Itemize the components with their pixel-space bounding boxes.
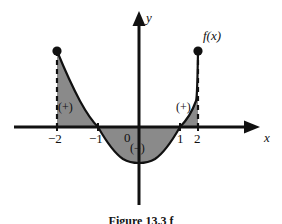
sign-label-middle-negative: (−) xyxy=(130,142,145,154)
x-tick-label-2: 2 xyxy=(194,132,201,145)
figure-caption: Figure 13.3 f xyxy=(0,214,282,224)
endpoint-dot-left xyxy=(52,46,61,55)
sign-label-right-positive: (+) xyxy=(176,101,191,113)
figure-container: y x f(x) −2 −1 1 2 0 (+) (−) (+) Figure … xyxy=(0,0,282,224)
x-tick-label--1: −1 xyxy=(89,132,103,145)
x-tick-label-1: 1 xyxy=(177,132,184,145)
x-axis-arrowhead xyxy=(244,121,260,134)
sign-label-left-positive: (+) xyxy=(58,101,73,113)
endpoint-dot-right xyxy=(193,46,202,55)
function-plot xyxy=(0,0,282,224)
y-axis-label: y xyxy=(146,11,152,24)
x-axis-label: x xyxy=(264,131,270,144)
function-label: f(x) xyxy=(203,29,221,42)
x-tick-label--2: −2 xyxy=(48,132,62,145)
y-axis-arrowhead xyxy=(133,11,146,26)
shaded-region-left-positive xyxy=(57,51,98,127)
